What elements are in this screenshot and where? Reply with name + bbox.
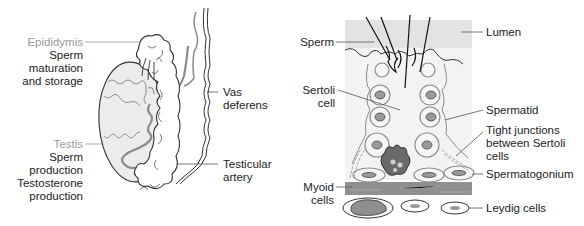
sertoli-cell-label-1: Sertoli — [290, 84, 335, 97]
tight-junctions-label-2: between Sertoli — [486, 137, 565, 150]
epididymis-title: Epididymis — [25, 36, 83, 49]
testis-desc-3: Testosterone — [5, 177, 83, 190]
spermatid-label: Spermatid — [486, 104, 538, 117]
testis-title: Testis — [25, 138, 83, 151]
tight-junctions-label-1: Tight junctions — [486, 124, 560, 137]
lumen-label: Lumen — [486, 26, 521, 39]
testicular-artery-label-1: Testicular — [223, 158, 272, 171]
sertoli-cell-label-2: cell — [290, 97, 335, 110]
vas-deferens-label-1: Vas — [223, 86, 242, 99]
epididymis-desc-1: Sperm — [10, 49, 83, 62]
testicular-artery-label-2: artery — [223, 171, 252, 184]
spermatogonium-label: Spermatogonium — [486, 168, 574, 181]
testis-desc-2: production — [5, 164, 83, 177]
testis-illustration — [85, 8, 218, 190]
seminiferous-tubule-illustration — [336, 15, 483, 218]
myoid-cells-label-1: Myoid — [290, 181, 334, 194]
sperm-label: Sperm — [290, 36, 334, 49]
testis-desc-1: Sperm — [5, 151, 83, 164]
tight-junctions-label-3: cells — [486, 150, 509, 163]
leydig-cells-label: Leydig cells — [486, 202, 546, 215]
vas-deferens-label-2: deferens — [223, 99, 268, 112]
myoid-cells-label-2: cells — [290, 194, 334, 207]
epididymis-desc-3: and storage — [10, 75, 83, 88]
testis-desc-4: production — [5, 190, 83, 203]
epididymis-desc-2: maturation — [10, 62, 83, 75]
